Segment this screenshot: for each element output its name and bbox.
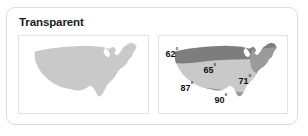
temp-label-65: 65° bbox=[204, 63, 217, 75]
temp-value-71: 71 bbox=[239, 76, 249, 86]
temp-value-62: 62 bbox=[166, 49, 176, 59]
degree-symbol: ° bbox=[191, 81, 194, 88]
degree-symbol: ° bbox=[176, 47, 179, 54]
temp-value-90: 90 bbox=[215, 95, 225, 105]
temp-value-65: 65 bbox=[204, 65, 214, 75]
transparent-style-card: Transparent bbox=[6, 7, 298, 125]
temp-label-62: 62° bbox=[166, 47, 179, 59]
page-title: Transparent bbox=[19, 16, 84, 28]
degree-symbol: ° bbox=[214, 63, 217, 70]
degree-symbol: ° bbox=[225, 93, 228, 100]
temp-label-87: 87° bbox=[181, 81, 194, 93]
degree-symbol: ° bbox=[249, 74, 252, 81]
us-map-plain-icon bbox=[19, 36, 148, 113]
temp-value-87: 87 bbox=[181, 83, 191, 93]
temp-label-71: 71° bbox=[239, 74, 252, 86]
plain-map-panel[interactable] bbox=[18, 35, 149, 114]
temperature-map-panel[interactable]: 62° 65° 71° 87° 90° bbox=[158, 35, 289, 114]
screenshot-root: Transparent bbox=[0, 0, 308, 136]
temp-label-90: 90° bbox=[215, 93, 228, 105]
map-panel-group: 62° 65° 71° 87° 90° bbox=[18, 35, 288, 114]
